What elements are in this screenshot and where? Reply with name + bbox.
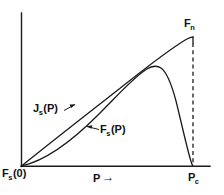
label-pc-sub: c [195, 177, 199, 186]
label-fs-of-p: Fs(P) [100, 124, 126, 135]
label-fs0-arg: (0) [13, 167, 26, 179]
x-axis-arrow-icon: → [102, 171, 114, 183]
label-pc: Pc [188, 172, 200, 183]
label-js-of-p: Js(P) [33, 103, 58, 114]
label-fn-sub: n [190, 23, 195, 32]
label-fs-arg: (P) [111, 123, 126, 135]
label-fn: Fn [184, 18, 195, 29]
label-js-arg: (P) [43, 102, 58, 114]
x-axis-label: P→ [93, 172, 112, 184]
curve-fs [22, 66, 193, 166]
label-fs0-sub: s [8, 173, 12, 182]
label-fs-of-zero: Fs(0) [2, 168, 26, 179]
figure-root: Fn Js(P) Fs(P) Fs(0) Pc P→ [0, 0, 224, 195]
label-js-sub: s [39, 108, 43, 117]
label-fs-sub: s [106, 129, 110, 138]
x-axis-label-main: P [93, 172, 100, 184]
